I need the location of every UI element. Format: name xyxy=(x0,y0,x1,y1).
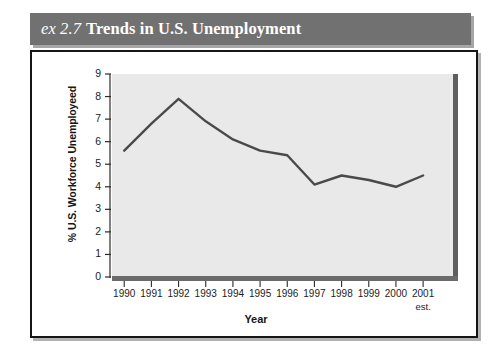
y-tick-label: 0 xyxy=(79,270,101,282)
x-axis-title: Year xyxy=(32,313,480,325)
chart-frame: 9876543210 19901991199219931994199519961… xyxy=(30,50,478,338)
data-series-line xyxy=(124,99,423,187)
figure-title-bar: ex 2.7Trends in U.S. Unemployment xyxy=(30,13,471,45)
y-tick-label: 4 xyxy=(79,180,101,192)
y-tick-label: 8 xyxy=(79,90,101,102)
y-tick-label: 2 xyxy=(79,225,101,237)
exhibit-figure: ex 2.7Trends in U.S. Unemployment 987654… xyxy=(0,0,499,358)
figure-number: ex 2.7 xyxy=(41,19,81,38)
x-tick-sublabel: est. xyxy=(406,301,440,312)
y-tick-label: 1 xyxy=(79,247,101,259)
y-axis-title: % U.S. Workforce Unemployeed xyxy=(66,64,78,264)
y-tick-label: 9 xyxy=(79,67,101,79)
chart-area: 9876543210 19901991199219931994199519961… xyxy=(32,52,480,340)
x-tick-marks xyxy=(124,281,423,287)
y-tick-label: 6 xyxy=(79,135,101,147)
figure-title: ex 2.7Trends in U.S. Unemployment xyxy=(41,19,301,39)
y-tick-label: 5 xyxy=(79,157,101,169)
y-tick-label: 3 xyxy=(79,202,101,214)
x-tick-label: 2001 xyxy=(406,288,440,299)
figure-title-main: Trends in U.S. Unemployment xyxy=(86,19,301,38)
y-tick-label: 7 xyxy=(79,112,101,124)
